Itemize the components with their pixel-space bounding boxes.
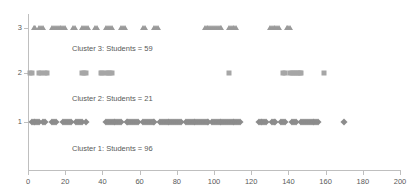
x-tick-label: 120 xyxy=(245,178,258,186)
square-marker xyxy=(299,71,304,76)
triangle-marker xyxy=(142,25,148,30)
x-tick-mark xyxy=(65,171,66,175)
triangle-marker xyxy=(85,25,91,30)
square-marker xyxy=(282,71,287,76)
square-marker xyxy=(226,71,231,76)
triangle-marker xyxy=(122,25,128,30)
x-tick-mark xyxy=(288,171,289,175)
square-marker xyxy=(109,71,114,76)
x-tick-label: 40 xyxy=(98,178,106,186)
square-marker xyxy=(44,71,49,76)
triangle-marker xyxy=(40,25,46,30)
x-tick-label: 100 xyxy=(208,178,221,186)
square-marker xyxy=(29,71,34,76)
x-tick-label: 160 xyxy=(319,178,332,186)
cluster-3-annotation: Cluster 3: Students = 59 xyxy=(72,45,153,53)
square-marker xyxy=(321,71,326,76)
triangle-marker xyxy=(109,25,115,30)
cluster-scatter-chart: 020406080100120140160180200 123 Cluster … xyxy=(0,0,418,195)
y-tick-mark xyxy=(24,122,28,123)
square-marker xyxy=(83,71,88,76)
x-tick-mark xyxy=(326,171,327,175)
triangle-marker xyxy=(94,25,100,30)
triangle-marker xyxy=(218,25,224,30)
y-tick-label: 2 xyxy=(14,69,22,77)
triangle-marker xyxy=(62,25,68,30)
x-tick-mark xyxy=(140,171,141,175)
cluster-1-annotation: Cluster 1: Students = 96 xyxy=(72,145,153,153)
x-tick-mark xyxy=(363,171,364,175)
x-tick-mark xyxy=(28,171,29,175)
y-tick-label: 3 xyxy=(14,24,22,32)
diamond-marker xyxy=(82,118,89,125)
triangle-marker xyxy=(155,25,161,30)
x-tick-label: 140 xyxy=(282,178,295,186)
x-tick-mark xyxy=(214,171,215,175)
x-tick-label: 60 xyxy=(135,178,143,186)
x-tick-label: 20 xyxy=(61,178,69,186)
x-tick-mark xyxy=(177,171,178,175)
cluster-2-annotation: Cluster 2: Students = 21 xyxy=(72,95,153,103)
triangle-marker xyxy=(233,25,239,30)
x-tick-mark xyxy=(251,171,252,175)
x-tick-label: 180 xyxy=(357,178,370,186)
x-tick-label: 200 xyxy=(394,178,407,186)
y-tick-label: 1 xyxy=(14,118,22,126)
x-tick-label: 0 xyxy=(26,178,30,186)
diamond-marker xyxy=(341,118,348,125)
triangle-marker xyxy=(276,25,282,30)
x-tick-label: 80 xyxy=(173,178,181,186)
triangle-marker xyxy=(287,25,293,30)
x-tick-mark xyxy=(400,171,401,175)
y-axis-line xyxy=(28,14,29,171)
x-tick-mark xyxy=(102,171,103,175)
triangle-marker xyxy=(72,25,78,30)
y-tick-mark xyxy=(24,28,28,29)
